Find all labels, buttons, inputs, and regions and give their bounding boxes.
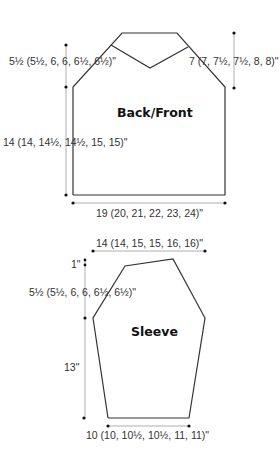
- shoulder-label: 7 (7, 7½, 7½, 8, 8)": [189, 56, 279, 67]
- measure-dot: [203, 249, 206, 252]
- measure-dot: [71, 201, 74, 204]
- measure-dot: [106, 424, 109, 427]
- measure-dot: [187, 424, 190, 427]
- measure-dot: [84, 264, 87, 267]
- measure-dot: [84, 259, 87, 262]
- measure-dot: [83, 316, 86, 319]
- back-front-title: Back/Front: [117, 107, 193, 120]
- measure-dot: [232, 31, 235, 34]
- sleeve-title: Sleeve: [131, 326, 178, 339]
- body-width-label: 19 (20, 21, 22, 23, 24)": [96, 208, 203, 219]
- armhole-depth-label: 5½ (5½, 6, 6, 6½, 6½)": [9, 56, 116, 67]
- sleeve-length-label: 13": [64, 362, 79, 373]
- sleeve-cap-top-label: 1": [71, 259, 81, 270]
- measure-dot: [64, 43, 67, 46]
- front-neck-line: [111, 45, 188, 68]
- body-length-label: 14 (14, 14½, 14½, 15, 15)": [3, 137, 128, 148]
- measure-dot: [82, 416, 85, 419]
- sleeve-cap-depth-label: 5½ (5½, 6, 6, 6½, 6½)": [29, 287, 136, 298]
- measure-dot: [91, 249, 94, 252]
- cuff-width-label: 10 (10, 10½, 10½, 11, 11)": [86, 430, 209, 441]
- measure-dot: [223, 201, 226, 204]
- measure-dot: [64, 85, 67, 88]
- measure-dot: [64, 193, 67, 196]
- schematic-drawing: [0, 0, 280, 467]
- measure-dot: [232, 86, 235, 89]
- sleeve-top-width-label: 14 (14, 15, 15, 16, 16)": [96, 238, 203, 249]
